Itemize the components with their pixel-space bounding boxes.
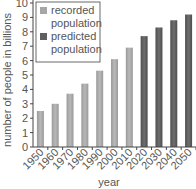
y-tick-label: 9: [22, 11, 28, 23]
y-tick-label: 0: [22, 141, 28, 153]
y-tick-label: 2: [22, 112, 28, 124]
bar-1950: [37, 111, 44, 147]
y-tick-label: 5: [22, 69, 28, 81]
bar-2000: [111, 59, 118, 147]
y-tick-label: 3: [22, 98, 28, 110]
population-bar-chart: number of people in billions year 012345…: [0, 0, 196, 189]
y-tick-label: 8: [22, 26, 28, 38]
bar-2030: [155, 27, 162, 147]
bar-1980: [81, 84, 88, 147]
bar-2050: [185, 15, 192, 147]
y-tick-label: 4: [22, 83, 28, 95]
legend: recorded population predicted population: [36, 2, 102, 62]
legend-label-predicted-1: predicted: [51, 30, 96, 42]
legend-swatch-recorded: [40, 7, 47, 14]
y-axis-title: number of people in billions: [1, 13, 13, 147]
y-tick-label: 6: [22, 55, 28, 67]
y-tick-label: 10: [16, 0, 28, 9]
bar-2010: [126, 48, 133, 147]
x-axis-title: year: [98, 176, 120, 188]
legend-swatch-predicted: [40, 33, 47, 40]
bar-2020: [141, 36, 148, 147]
bar-1960: [52, 104, 59, 147]
bar-1970: [67, 94, 74, 147]
bar-2040: [170, 20, 177, 147]
y-tick-label: 7: [22, 40, 28, 52]
legend-label-recorded-2: population: [51, 17, 102, 29]
bar-1990: [96, 71, 103, 147]
legend-label-predicted-2: population: [51, 43, 102, 55]
y-axis-title-text: number of people in billions: [1, 13, 13, 147]
y-tick-label: 1: [22, 127, 28, 139]
legend-label-recorded-1: recorded: [51, 4, 94, 16]
